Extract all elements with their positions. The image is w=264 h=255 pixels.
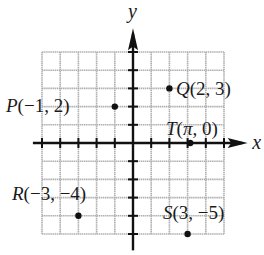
point-t (187, 140, 193, 146)
point-label-t: T(π, 0) (166, 118, 218, 140)
point-q (166, 85, 172, 91)
point-label-s: S(3, −5) (163, 202, 224, 224)
point-label-q: Q(2, 3) (176, 78, 231, 100)
point-p (112, 103, 118, 109)
point-r (75, 213, 81, 219)
x-axis-label: x (251, 131, 261, 153)
point-s (184, 231, 190, 237)
y-axis-label: y (126, 0, 137, 23)
point-label-r: R(−3, −4) (11, 183, 86, 205)
point-label-p: P(−1, 2) (5, 95, 69, 117)
coordinate-plane: xy P(−1, 2)Q(2, 3)T(π, 0)R(−3, −4)S(3, −… (0, 0, 264, 255)
labels: P(−1, 2)Q(2, 3)T(π, 0)R(−3, −4)S(3, −5) (5, 78, 231, 224)
